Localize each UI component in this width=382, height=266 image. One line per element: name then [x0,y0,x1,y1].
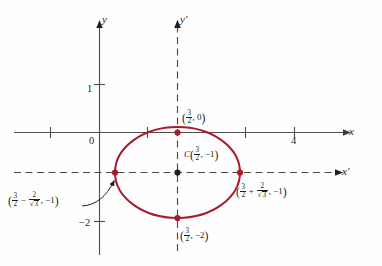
right-vertex-operator: + [249,186,254,196]
point-right-vertex [237,169,243,175]
y-prime-axis-label: y′ [180,14,187,25]
close-paren-icon: ) [202,113,206,125]
point-center [174,169,180,175]
y-tick-label-1: 1 [87,84,92,95]
radical-icon: √ [258,191,262,198]
left-vertex-y: −1 [45,195,55,205]
center-y: −1 [205,149,215,159]
label-center: C(32, −1) [184,147,219,163]
ellipse-figure: y y′ x x′ 1 −2 0 4 (32, 0) C(32, −1) (32… [0,0,382,266]
close-paren-icon: ) [205,231,209,243]
comma: , [193,112,195,122]
comma: , [269,186,271,196]
open-paren-icon: ( [236,187,240,199]
point-bottom-vertex [174,215,180,221]
x-tick-label-0: 0 [89,136,94,147]
open-paren-icon: ( [180,231,184,243]
label-top-vertex: (32, 0) [182,110,205,126]
fraction-three-halves: 32 [186,110,192,126]
comma: , [41,195,43,205]
label-bottom-vertex: (32, −2) [180,228,208,244]
x-tick-label-4: 4 [291,136,296,147]
radical-icon: √ [30,200,34,207]
fraction-three-halves: 32 [240,184,246,200]
sqrt-three: √3 [257,190,269,199]
comma: , [201,149,203,159]
fraction-two-over-root-three: 2√3 [257,183,269,200]
x-prime-axis-label: x′ [342,166,349,177]
y-axis-label: y [102,14,107,25]
comma: , [191,230,193,240]
fraction-three-halves: 32 [184,228,190,244]
left-vertex-operator: − [21,195,26,205]
open-paren-icon: ( [190,150,194,162]
y-axis [94,27,105,255]
leader-arrow [82,181,114,206]
x-axis-label: x [349,126,354,137]
fraction-two-over-root-three: 2√3 [29,192,41,209]
figure-canvas [0,0,382,266]
fraction-three-halves: 32 [194,147,200,163]
close-paren-icon: ) [283,187,287,199]
close-paren-icon: ) [215,150,219,162]
sqrt-three: √3 [29,199,41,208]
y-tick-label--2: −2 [79,218,90,229]
open-paren-icon: ( [8,196,12,208]
label-right-vertex: (32 + 2√3, −1) [236,183,287,200]
point-left-vertex [112,169,118,175]
open-paren-icon: ( [182,113,186,125]
bottom-vertex-y: −2 [195,230,205,240]
right-vertex-y: −1 [273,186,283,196]
point-top-vertex [174,129,180,135]
label-left-vertex: (32 − 2√3, −1) [8,192,59,209]
fraction-three-halves: 32 [12,193,18,209]
close-paren-icon: ) [55,196,59,208]
